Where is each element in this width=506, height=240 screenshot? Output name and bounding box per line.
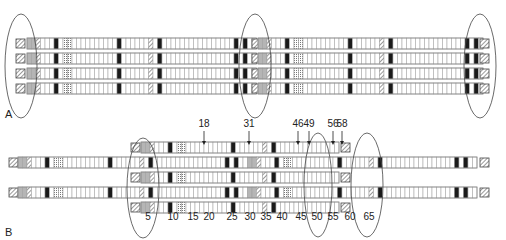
subunit-cell [473, 157, 478, 168]
subunit-cell [90, 53, 95, 64]
position-tick-label: 45 [295, 211, 307, 222]
subunit-cell [144, 187, 149, 198]
subunit-cell [50, 38, 55, 49]
subunit-cell [281, 38, 286, 49]
subunit-cell [407, 83, 412, 94]
subunit-cell [263, 83, 268, 94]
position-tick-label: 10 [167, 211, 179, 222]
subunit-cell [177, 172, 182, 183]
subunit-cell [258, 172, 263, 183]
subunit-cell [153, 53, 158, 64]
subunit-cell [212, 83, 217, 94]
subunit-cell [443, 38, 448, 49]
subunit-cell [36, 187, 41, 198]
subunit-cell [81, 157, 86, 168]
subunit-cell [113, 83, 118, 94]
subunit-cell [384, 68, 389, 79]
subunit-cell [429, 83, 434, 94]
subunit-cell [113, 68, 118, 79]
subunit-cell [135, 53, 140, 64]
subunit-cell [54, 53, 59, 64]
subunit-cell [153, 38, 158, 49]
subunit-cell [432, 157, 437, 168]
subunit-cell [231, 142, 236, 153]
subunit-cell [230, 68, 235, 79]
subunit-cell [218, 172, 223, 183]
subunit-cell [447, 38, 452, 49]
subunit-cell [380, 38, 385, 49]
subunit-cell [117, 83, 122, 94]
subunit-cell [276, 172, 281, 183]
panel-b-long-strand [9, 187, 489, 198]
subunit-cell [54, 187, 59, 198]
subunit-cell [140, 83, 145, 94]
subunit-cell [452, 68, 457, 79]
subunit-cell [407, 38, 412, 49]
subunit-cell [441, 187, 446, 198]
subunit-cell [261, 157, 266, 168]
subunit-cell [140, 68, 145, 79]
subunit-cell [257, 187, 262, 198]
subunit-cell [393, 68, 398, 79]
subunit-cell [50, 68, 55, 79]
subunit-cell [144, 53, 149, 64]
subunit-cell [437, 157, 442, 168]
subunit-cell [126, 38, 131, 49]
subunit-cell [290, 38, 295, 49]
subunit-cell [248, 53, 253, 64]
subunit-cell [443, 53, 448, 64]
subunit-cell [374, 187, 379, 198]
subunit-cell [195, 172, 200, 183]
subunit-cell [227, 172, 232, 183]
subunit-cell [68, 68, 73, 79]
subunit-cell [59, 68, 64, 79]
subunit-cell [389, 83, 394, 94]
subunit-cell [104, 68, 109, 79]
subunit-cell [437, 187, 442, 198]
subunit-cell [459, 157, 464, 168]
subunit-cell [167, 187, 172, 198]
subunit-cell [321, 172, 326, 183]
subunit-cell [108, 83, 113, 94]
subunit-cell [63, 187, 68, 198]
subunit-cell [258, 53, 263, 64]
subunit-cell [401, 187, 406, 198]
subunit-cell [167, 38, 172, 49]
subunit-cell [335, 142, 340, 153]
subunit-cell [185, 157, 190, 168]
subunit-cell [320, 157, 325, 168]
panel-b: 5101520253035404550556065183146495658 [9, 118, 489, 238]
subunit-cell [330, 68, 335, 79]
subunit-cell [254, 142, 259, 153]
position-tick-label: 65 [363, 211, 375, 222]
subunit-cell [198, 38, 203, 49]
subunit-cell [218, 202, 223, 213]
subunit-cell [450, 187, 455, 198]
subunit-cell [326, 53, 331, 64]
subunit-cell [90, 157, 95, 168]
subunit-cell [275, 157, 280, 168]
subunit-cell [335, 38, 340, 49]
subunit-cell [230, 53, 235, 64]
subunit-cell [356, 157, 361, 168]
subunit-cell [308, 83, 313, 94]
subunit-cell [456, 53, 461, 64]
subunit-cell [419, 157, 424, 168]
subunit-cell [285, 68, 290, 79]
subunit-cell [384, 53, 389, 64]
subunit-cell [63, 83, 68, 94]
subunit-cell [452, 83, 457, 94]
subunit-cell [263, 38, 268, 49]
subunit-cell [135, 187, 140, 198]
subunit-cell [168, 172, 173, 183]
subunit-cell [177, 142, 182, 153]
subunit-cell [203, 187, 208, 198]
subunit-cell [131, 68, 136, 79]
subunit-cell [99, 157, 104, 168]
subunit-cell [207, 53, 212, 64]
subunit-cell [131, 38, 136, 49]
subunit-cell [294, 38, 299, 49]
subunit-cell [144, 38, 149, 49]
subunit-cell [68, 38, 73, 49]
subunit-cell [365, 157, 370, 168]
